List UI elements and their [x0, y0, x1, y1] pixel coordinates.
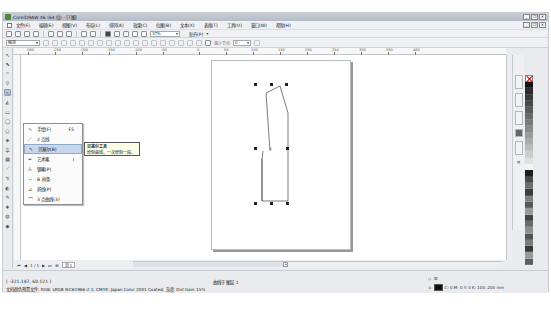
copy-icon[interactable] — [57, 31, 63, 37]
vertical-ruler[interactable] — [14, 55, 21, 260]
flyout-item-bezier[interactable]: ↖ 贝塞尔(B) — [24, 144, 82, 154]
import-icon[interactable] — [105, 31, 111, 37]
mirror-h-icon[interactable] — [178, 40, 184, 46]
publish-pdf-icon[interactable] — [123, 31, 129, 37]
menu-effects[interactable]: 效果(C) — [133, 22, 148, 28]
eyedropper-icon[interactable]: ✎ — [4, 194, 11, 201]
docker-tab-color[interactable] — [515, 129, 523, 137]
extract-subpath-icon[interactable] — [142, 40, 148, 46]
redo-icon[interactable] — [90, 31, 96, 37]
close-icon[interactable]: ✕ — [516, 159, 520, 165]
menu-bitmaps[interactable]: 位图(B) — [156, 22, 171, 28]
new-icon[interactable] — [6, 31, 12, 37]
snap-to-button[interactable]: 贴齐(P) — [189, 31, 203, 37]
delete-node-icon[interactable] — [52, 40, 58, 46]
preset-select[interactable]: 缩放 ▾ — [6, 40, 40, 46]
interactive-fill-icon[interactable]: ◆ — [4, 222, 11, 229]
add-node-icon[interactable] — [43, 40, 49, 46]
interactive-effects-icon[interactable]: ◐ — [4, 184, 11, 191]
document-page[interactable]: × — [211, 60, 351, 250]
menu-edit[interactable]: 编辑(E) — [39, 22, 53, 28]
symmetrical-node-icon[interactable] — [115, 40, 121, 46]
restore-button[interactable]: ❐ — [531, 14, 538, 20]
welcome-screen-icon[interactable] — [141, 31, 147, 37]
menu-table[interactable]: 表格(T) — [204, 22, 218, 28]
color-profile-info[interactable]: 文档颜色预置文件: RGB: sRGB IEC61966-2.1; CMYK: … — [6, 286, 205, 292]
doc-minimize-button[interactable]: _ — [523, 22, 530, 28]
rectangle-tool-icon[interactable]: ▭ — [4, 108, 11, 115]
docker-tab-object-properties[interactable] — [515, 75, 523, 89]
next-page-icon[interactable]: ▶ — [42, 263, 45, 268]
elastic-mode-icon[interactable] — [196, 40, 202, 46]
scroll-arrow-icon[interactable]: ◂ — [283, 262, 288, 267]
no-fill-icon[interactable]: ☒ — [434, 276, 438, 281]
fill-tool-icon[interactable]: ◍ — [4, 213, 11, 220]
connector-tool-icon[interactable]: ↯ — [4, 175, 11, 182]
flyout-item-freehand[interactable]: ∿ 手绘(F) F5 — [24, 124, 82, 134]
convert-to-line-icon[interactable] — [79, 40, 85, 46]
docker-tab-object-manager[interactable] — [515, 93, 523, 107]
flyout-item-artistic-media[interactable]: ✒ 艺术笔 I — [24, 154, 82, 164]
last-page-icon[interactable]: ⏭ — [48, 263, 52, 268]
curve-tool-icon[interactable]: ∿ — [4, 89, 11, 96]
docker-tab-hints[interactable] — [515, 111, 523, 125]
flyout-item-pen[interactable]: ♙ 钢笔(P) — [24, 164, 82, 174]
zoom-tool-icon[interactable]: ⚲ — [4, 80, 11, 87]
menu-arrange[interactable]: 排列(A) — [109, 22, 124, 28]
convert-to-curve-icon[interactable] — [88, 40, 94, 46]
extend-curve-icon[interactable] — [133, 40, 139, 46]
scrollbar-thumb[interactable] — [133, 262, 283, 267]
docker-tab-transform[interactable] — [515, 141, 523, 155]
outline-color-swatch[interactable] — [434, 284, 443, 291]
smart-fill-icon[interactable]: ◭ — [4, 99, 11, 106]
horizontal-scrollbar[interactable]: ◂ — [133, 261, 503, 267]
first-page-icon[interactable]: ⏮ — [17, 263, 21, 268]
doc-close-button[interactable]: ✕ — [539, 22, 546, 28]
basic-shapes-icon[interactable]: ◈ — [4, 137, 11, 144]
reverse-direction-icon[interactable] — [124, 40, 130, 46]
align-nodes-icon[interactable] — [169, 40, 175, 46]
doc-restore-button[interactable]: ❐ — [531, 22, 538, 28]
reduce-nodes-icon[interactable] — [254, 40, 260, 46]
paste-icon[interactable] — [66, 31, 72, 37]
join-nodes-icon[interactable] — [61, 40, 67, 46]
menu-layout[interactable]: 布局(L) — [86, 22, 100, 28]
prev-page-icon[interactable]: ◀ — [24, 263, 27, 268]
menu-help[interactable]: 帮助(H) — [276, 22, 291, 28]
flyout-item-polyline[interactable]: ⊿ 折线(P) — [24, 184, 82, 194]
flyout-item-2-point-line[interactable]: ⟋ 2 点线 — [24, 134, 82, 144]
text-tool-icon[interactable]: 字 — [4, 146, 11, 153]
outline-pen-icon[interactable]: ♦ — [4, 203, 11, 210]
table-tool-icon[interactable]: ▦ — [4, 156, 11, 163]
smooth-node-icon[interactable] — [106, 40, 112, 46]
select-all-nodes-icon[interactable] — [205, 40, 211, 46]
save-icon[interactable] — [24, 31, 30, 37]
application-launcher-icon[interactable] — [132, 31, 138, 37]
minimize-button[interactable]: _ — [523, 14, 530, 20]
document-icon[interactable] — [7, 23, 12, 28]
ellipse-tool-icon[interactable]: ◯ — [4, 118, 11, 125]
horizontal-ruler[interactable]: -300 -250 -200 -150 -100 -50 0 50 100 15… — [14, 48, 506, 55]
color-swatch[interactable] — [525, 259, 533, 265]
chevron-down-icon[interactable]: ▾ — [206, 31, 208, 36]
export-icon[interactable] — [114, 31, 120, 37]
menu-tools[interactable]: 工具(O) — [227, 22, 242, 28]
menu-window[interactable]: 窗口(W) — [251, 22, 267, 28]
no-fill-swatch[interactable] — [525, 75, 533, 82]
zoom-level-select[interactable]: 37% ▾ — [150, 31, 180, 37]
mirror-v-icon[interactable] — [187, 40, 193, 46]
flyout-item-b-spline[interactable]: ∼ B 样条 — [24, 174, 82, 184]
dimension-tool-icon[interactable]: ⟋ — [4, 165, 11, 172]
close-button[interactable]: ✕ — [539, 14, 546, 20]
rotate-nodes-icon[interactable] — [160, 40, 166, 46]
cut-icon[interactable] — [48, 31, 54, 37]
add-page-icon[interactable]: ⊞ — [55, 263, 58, 268]
shape-tool-icon[interactable]: ⬉ — [4, 61, 11, 68]
polygon-tool-icon[interactable]: ⬠ — [4, 127, 11, 134]
open-icon[interactable] — [15, 31, 21, 37]
cusp-node-icon[interactable] — [97, 40, 103, 46]
break-curve-icon[interactable] — [70, 40, 76, 46]
curve-smoothness-input[interactable]: 0 ▾ — [233, 40, 251, 46]
selected-curve-shape[interactable]: × — [212, 61, 352, 251]
print-icon[interactable] — [33, 31, 39, 37]
